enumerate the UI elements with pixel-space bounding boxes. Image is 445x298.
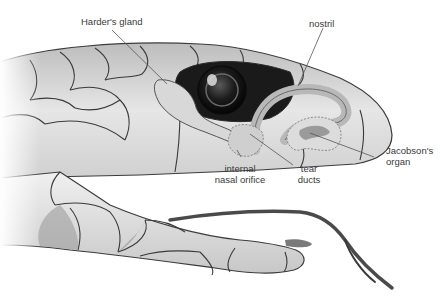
label-harders-gland: Harder's gland [81, 16, 143, 27]
label-jacobsons-organ-line1: Jacobson's [386, 145, 433, 156]
lower-jaw [0, 172, 312, 275]
label-tear-ducts-line2: ducts [294, 174, 324, 185]
label-jacobsons-organ-line2: organ [386, 156, 410, 167]
label-internal-nasal-orifice-line2: nasal orifice [205, 174, 275, 185]
label-tear-ducts-line1: tear [294, 163, 324, 174]
snake-head-illustration [0, 0, 445, 298]
label-nostril: nostril [309, 18, 334, 29]
label-internal-nasal-orifice-line1: internal [210, 163, 270, 174]
